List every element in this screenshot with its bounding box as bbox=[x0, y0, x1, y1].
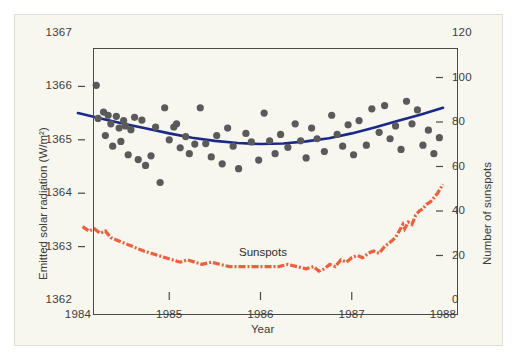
x-tick-label-3: 1987 bbox=[330, 308, 374, 320]
chart-paper: 136213631364136513661367 020406080100120… bbox=[15, 15, 502, 345]
right-tick-label-0: 0 bbox=[452, 293, 484, 305]
right-tick-label-4: 80 bbox=[452, 115, 484, 127]
right-tick-label-2: 40 bbox=[452, 204, 484, 216]
right-tick-label-1: 20 bbox=[452, 249, 484, 261]
sunspots-series-label: Sunspots bbox=[239, 246, 287, 258]
x-tick-label-0: 1984 bbox=[56, 308, 100, 320]
right-tick-label-5: 100 bbox=[452, 71, 484, 83]
figure-canvas: 136213631364136513661367 020406080100120… bbox=[0, 0, 518, 363]
left-tick-label-5: 1367 bbox=[30, 26, 72, 38]
left-tick-label-0: 1362 bbox=[30, 293, 72, 305]
x-tick-label-1: 1985 bbox=[147, 308, 191, 320]
left-axis-title: Emitted solar radiation (W/m²) bbox=[37, 127, 49, 280]
plot-frame bbox=[93, 48, 458, 315]
right-tick-label-3: 60 bbox=[452, 160, 484, 172]
x-tick-label-2: 1986 bbox=[239, 308, 283, 320]
x-tick-label-4: 1988 bbox=[421, 308, 465, 320]
right-axis-title: Number of sunspots bbox=[481, 162, 493, 265]
x-axis-title: Year bbox=[251, 323, 274, 335]
left-tick-label-4: 1366 bbox=[30, 79, 72, 91]
right-tick-label-6: 120 bbox=[452, 26, 484, 38]
left-axis-ticks bbox=[78, 86, 85, 246]
